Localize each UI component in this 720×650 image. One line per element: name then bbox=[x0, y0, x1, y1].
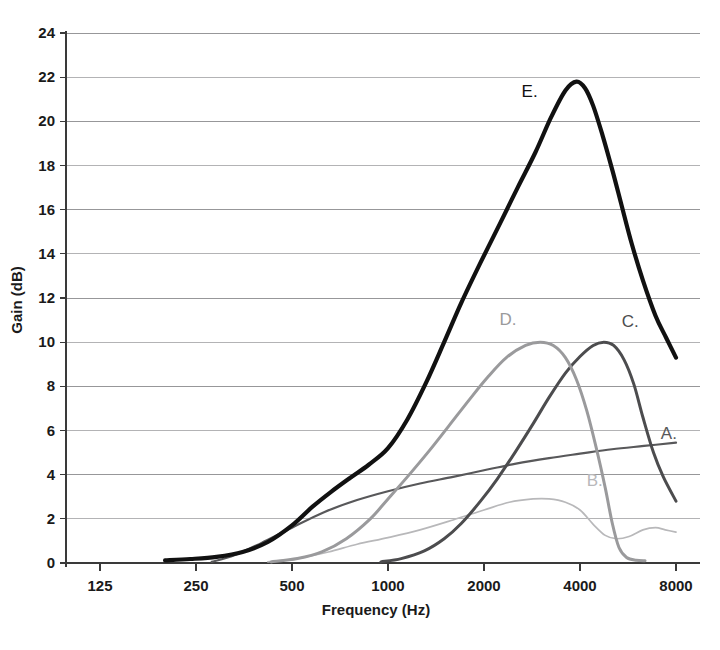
series-label-e: E. bbox=[522, 82, 538, 101]
y-tick-label-2: 2 bbox=[47, 510, 55, 527]
series-label-c: C. bbox=[622, 312, 639, 331]
y-tick-label-16: 16 bbox=[38, 201, 55, 218]
x-tick-label-8000: 8000 bbox=[659, 577, 692, 594]
gain-frequency-chart: 024681012141618202224 125250500100020004… bbox=[0, 0, 720, 650]
x-tick-label-1000: 1000 bbox=[371, 577, 404, 594]
series-label-b: B. bbox=[587, 471, 603, 490]
y-axis-title: Gain (dB) bbox=[8, 266, 25, 334]
y-tick-label-0: 0 bbox=[47, 554, 55, 571]
x-tick-label-250: 250 bbox=[183, 577, 208, 594]
x-tick-label-125: 125 bbox=[87, 577, 112, 594]
y-tick-label-10: 10 bbox=[38, 333, 55, 350]
y-tick-label-24: 24 bbox=[38, 24, 55, 41]
x-axis-title: Frequency (Hz) bbox=[322, 601, 430, 618]
y-tick-label-6: 6 bbox=[47, 422, 55, 439]
y-tick-label-20: 20 bbox=[38, 112, 55, 129]
y-tick-label-18: 18 bbox=[38, 157, 55, 174]
chart-canvas: 024681012141618202224 125250500100020004… bbox=[0, 0, 720, 650]
series-label-d: D. bbox=[500, 310, 517, 329]
x-tick-label-4000: 4000 bbox=[563, 577, 596, 594]
chart-background bbox=[0, 0, 720, 650]
series-label-a: A. bbox=[661, 424, 677, 443]
y-tick-label-22: 22 bbox=[38, 68, 55, 85]
y-tick-label-4: 4 bbox=[47, 466, 56, 483]
y-tick-label-8: 8 bbox=[47, 377, 55, 394]
x-tick-label-500: 500 bbox=[279, 577, 304, 594]
y-tick-label-12: 12 bbox=[38, 289, 55, 306]
y-tick-label-14: 14 bbox=[38, 245, 55, 262]
x-tick-label-2000: 2000 bbox=[467, 577, 500, 594]
